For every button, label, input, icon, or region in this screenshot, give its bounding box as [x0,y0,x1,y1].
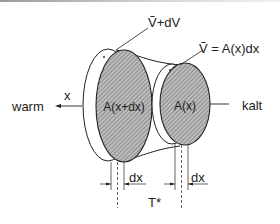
label-warm: warm [11,99,44,114]
label-kalt: kalt [242,98,263,113]
label-area-large: A(x+dx) [103,100,145,114]
label-volume-plus: Ṽ+dV [148,15,180,30]
label-dx-right: dx [191,170,205,185]
label-x-axis: x [64,88,71,103]
label-dx-left: dx [129,170,143,185]
dx-dimension-left [100,162,146,208]
heat-flow-diagram: Ṽ+dV Ṽ = A(x)dx x warm kalt A(x+dx) A(… [0,0,280,224]
label-volume-equation: Ṽ = A(x)dx [199,41,260,56]
label-temperature: T* [148,195,161,210]
label-area-small: A(x) [174,99,196,113]
x-axis-arrow [55,104,82,108]
